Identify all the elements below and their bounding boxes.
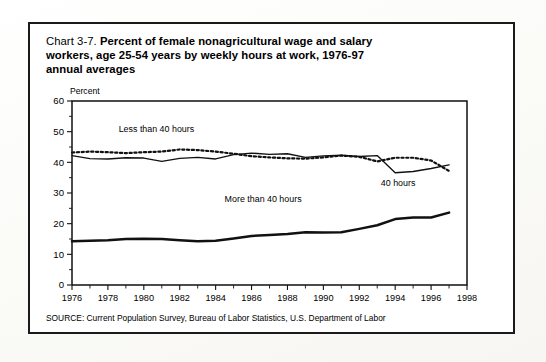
source-note: SOURCE: Current Population Survey, Burea…: [46, 313, 386, 323]
x-tick-label: 1998: [457, 293, 477, 303]
x-tick-label: 1980: [134, 293, 154, 303]
x-tick-label: 1990: [313, 293, 333, 303]
x-tick-label: 1976: [62, 293, 82, 303]
series-label-1: 40 hours: [381, 178, 416, 188]
x-tick-label: 1978: [98, 293, 118, 303]
x-tick-label: 1996: [421, 293, 441, 303]
x-tick-label: 1986: [241, 293, 261, 303]
y-tick-label: 30: [53, 187, 64, 198]
series-annotations: Less than 40 hours40 hoursMore than 40 h…: [119, 124, 416, 204]
page-canvas: Chart 3-7. Percent of female nonagricult…: [0, 0, 546, 362]
x-tick-label: 1994: [385, 293, 405, 303]
line-chart-svg: 0102030405060197619781980198219841986198…: [30, 24, 517, 336]
y-tick-label: 60: [53, 95, 64, 106]
x-tick-label: 1984: [205, 293, 225, 303]
x-tick-label: 1982: [170, 293, 190, 303]
x-tick-label: 1992: [349, 293, 369, 303]
y-tick-label: 10: [53, 249, 64, 260]
series-line-2: [72, 213, 449, 242]
plot-area: 0102030405060197619781980198219841986198…: [30, 24, 517, 336]
y-tick-label: 50: [53, 126, 64, 137]
figure-frame: Chart 3-7. Percent of female nonagricult…: [28, 22, 515, 334]
y-tick-label: 0: [59, 279, 64, 290]
series-line-0: [72, 149, 449, 170]
x-tick-label: 1988: [277, 293, 297, 303]
y-tick-label: 40: [53, 157, 64, 168]
series-label-2: More than 40 hours: [225, 194, 303, 204]
y-tick-label: 20: [53, 218, 64, 229]
series-label-0: Less than 40 hours: [119, 124, 195, 134]
